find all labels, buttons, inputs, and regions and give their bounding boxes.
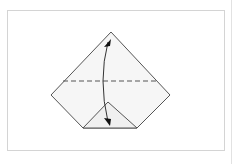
origami-diagram bbox=[0, 0, 234, 164]
